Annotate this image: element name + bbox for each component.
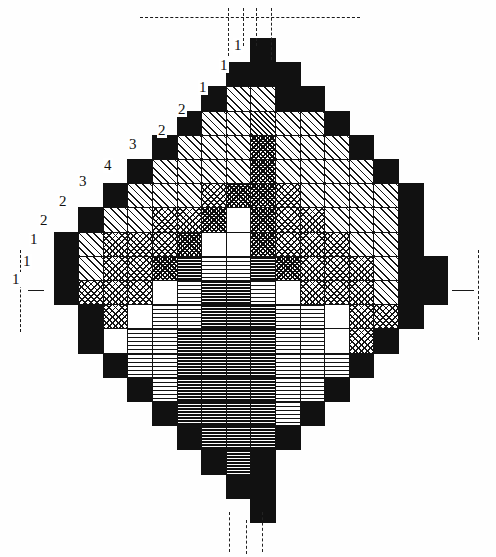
step-callout-9: 2 — [39, 213, 49, 228]
step-callout-4: 2 — [157, 123, 167, 138]
step-callout-3: 2 — [177, 102, 187, 117]
step-callout-10: 1 — [29, 232, 39, 247]
core-map-figure: 1112234322111 — [0, 0, 496, 557]
step-callout-11: 1 — [22, 254, 32, 269]
callout-layer: 1112234322111 — [0, 0, 496, 557]
step-callout-6: 4 — [103, 158, 113, 173]
step-callout-5: 3 — [128, 137, 138, 152]
step-callout-12: 1 — [11, 272, 21, 287]
step-callout-0: 1 — [233, 38, 243, 53]
step-callout-7: 3 — [78, 174, 88, 189]
step-callout-8: 2 — [58, 194, 68, 209]
step-callout-1: 1 — [219, 58, 229, 73]
step-callout-2: 1 — [198, 80, 208, 95]
